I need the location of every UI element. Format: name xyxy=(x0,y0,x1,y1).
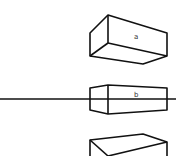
box-c xyxy=(90,134,167,156)
perspective-diagram: a b xyxy=(0,0,176,156)
diagram-canvas: a b xyxy=(0,0,176,156)
box-b-label: b xyxy=(134,91,139,99)
box-a: a xyxy=(90,15,167,64)
box-a-label: a xyxy=(134,33,138,41)
